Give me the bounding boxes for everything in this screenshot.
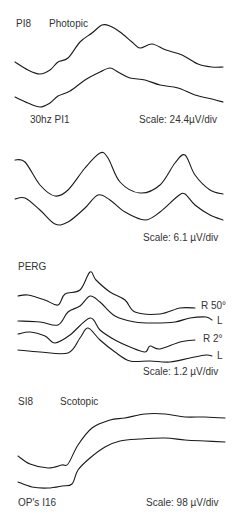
perg-label-l2: L [217, 350, 223, 361]
scotopic-scale: Scale: 98 µV/div [146, 497, 218, 508]
flicker-30hz-waveform-trace [15, 152, 223, 196]
flicker-scale: Scale: 6.1 µV/div [143, 232, 218, 243]
PERG-waveform-trace [18, 328, 212, 362]
scotopic-title: Scotopic [60, 396, 98, 407]
photopic-scale: Scale: 24.4µV/div [139, 114, 217, 125]
photopic-id-label: PI8 [16, 18, 31, 29]
perg-label-l1: L [217, 315, 223, 326]
flicker-id-label: 30hz PI1 [30, 114, 69, 125]
perg-scale: Scale: 1.2 µV/div [143, 366, 218, 377]
perg-title: PERG [18, 261, 46, 272]
scotopic-id-label: SI8 [18, 396, 33, 407]
photopic-waveform-trace [15, 68, 223, 107]
ops-id-label: OP's I16 [18, 497, 56, 508]
photopic-title: Photopic [49, 18, 88, 29]
perg-label-r2: R 2° [203, 333, 223, 344]
perg-label-r50: R 50° [201, 300, 226, 311]
flicker-30hz-waveform-trace [15, 193, 223, 225]
photopic-waveform-trace [15, 24, 223, 74]
scotopic-waveform-trace [18, 438, 225, 488]
